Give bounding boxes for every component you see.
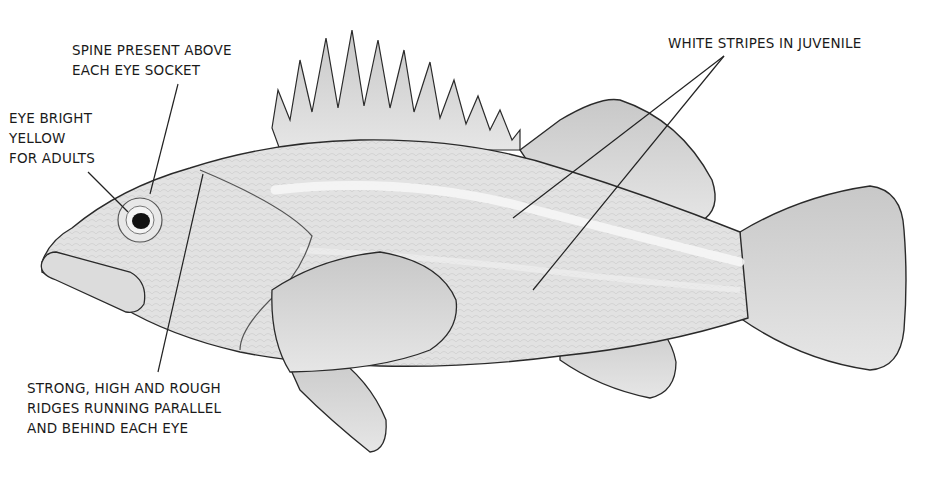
ridges-label: STRONG, HIGH AND ROUGH RIDGES RUNNING PA… xyxy=(27,378,221,438)
eye-color-label: EYE BRIGHT YELLOW FOR ADULTS xyxy=(9,108,95,168)
eye-pupil xyxy=(132,213,150,229)
spine-label: SPINE PRESENT ABOVE EACH EYE SOCKET xyxy=(72,40,232,80)
white-stripes-label: WHITE STRIPES IN JUVENILE xyxy=(668,33,861,53)
caudal-fin xyxy=(740,186,906,370)
spiny-dorsal-fin xyxy=(272,30,520,150)
